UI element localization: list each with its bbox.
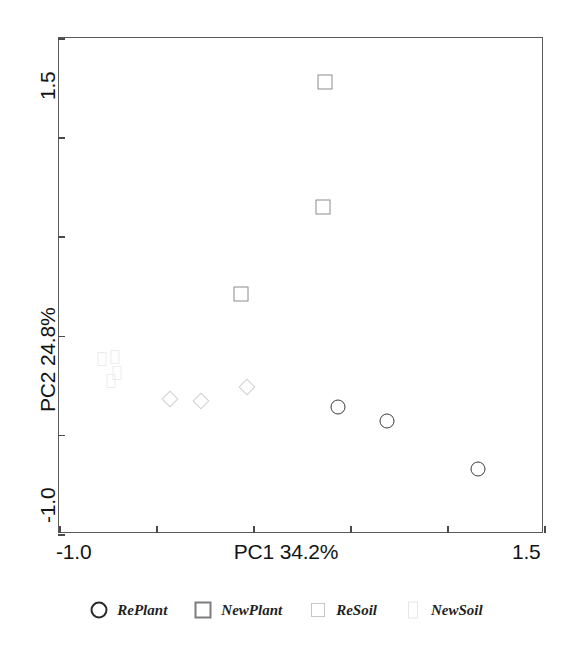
pca-scatter-figure: -1.0 PC1 34.2% 1.5 1.5 PC2 24.8% -1.0 Re… bbox=[0, 0, 572, 653]
legend-marker-tall-square-icon bbox=[403, 600, 423, 620]
legend-entry-newsoil[interactable]: NewSoil bbox=[403, 600, 483, 620]
data-point-layer bbox=[59, 38, 542, 532]
x-axis-title: PC1 34.2% bbox=[0, 540, 572, 564]
data-point-resoil bbox=[161, 391, 178, 408]
data-point-resoil bbox=[192, 393, 209, 410]
data-point-replant bbox=[471, 461, 486, 476]
legend-label: NewSoil bbox=[431, 602, 483, 619]
y-axis-tick bbox=[58, 534, 65, 536]
legend-label: ReSoil bbox=[336, 602, 377, 619]
data-point-newsoil bbox=[111, 350, 120, 364]
x-axis-max-tick-label: 1.5 bbox=[512, 540, 541, 564]
legend-entry-newplant[interactable]: NewPlant bbox=[193, 600, 282, 620]
y-axis-title: PC2 24.8% bbox=[36, 308, 60, 412]
plot-area bbox=[58, 37, 543, 533]
data-point-resoil bbox=[239, 379, 256, 396]
legend-entry-replant[interactable]: RePlant bbox=[89, 600, 167, 620]
data-point-replant bbox=[379, 413, 394, 428]
data-point-replant bbox=[331, 400, 346, 415]
legend-label: NewPlant bbox=[221, 602, 282, 619]
data-point-newplant bbox=[317, 74, 332, 89]
x-axis-tick bbox=[544, 526, 546, 533]
legend: RePlantNewPlantReSoilNewSoil bbox=[0, 600, 572, 620]
data-point-newsoil bbox=[97, 352, 106, 366]
legend-entry-resoil[interactable]: ReSoil bbox=[308, 600, 377, 620]
legend-marker-circle-icon bbox=[89, 600, 109, 620]
data-point-newsoil bbox=[107, 374, 116, 388]
legend-marker-square-icon bbox=[193, 600, 213, 620]
y-axis-min-tick-label: -1.0 bbox=[36, 488, 60, 523]
legend-marker-diamond-icon bbox=[308, 600, 328, 620]
data-point-newplant bbox=[315, 199, 330, 214]
legend-label: RePlant bbox=[117, 602, 167, 619]
data-point-newplant bbox=[234, 286, 249, 301]
y-axis-max-tick-label: 1.5 bbox=[36, 71, 60, 100]
